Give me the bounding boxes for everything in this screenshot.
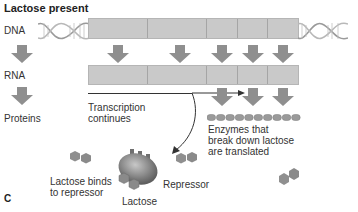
down-arrow-icon — [272, 45, 294, 63]
repressor-icon — [114, 147, 162, 195]
rna-segment-divider — [147, 66, 148, 84]
down-arrow-icon — [272, 88, 294, 106]
rna-label: RNA — [4, 70, 25, 81]
dna-segment-divider — [206, 19, 207, 38]
transcription-line2: continues — [88, 113, 145, 124]
dna-segment-divider — [147, 19, 148, 38]
rna-bar — [88, 65, 299, 85]
rna-segment-divider — [267, 66, 268, 84]
down-arrow-icon — [169, 45, 191, 63]
enzymes-line2: break down lactose — [208, 135, 294, 146]
repressor-label: Repressor — [163, 179, 209, 190]
enzyme-chain-icon — [207, 114, 301, 121]
down-arrow-icon — [11, 45, 33, 63]
down-arrow-icon — [107, 45, 129, 63]
lactose-binds-line2: to repressor — [50, 187, 112, 198]
lactose-label: Lactose — [122, 196, 157, 207]
transcription-line1: Transcription — [88, 102, 145, 113]
rna-segment-divider — [237, 66, 238, 84]
lactose-molecule-icon — [276, 166, 302, 188]
transcription-label: Transcription continues — [88, 102, 145, 124]
dna-helix-right-icon — [298, 18, 348, 44]
enzymes-line1: Enzymes that — [208, 124, 294, 135]
rna-segment-divider — [206, 66, 207, 84]
proteins-label: Proteins — [4, 113, 41, 124]
enzymes-label: Enzymes that break down lactose are tran… — [208, 124, 294, 157]
down-arrow-icon — [211, 45, 233, 63]
panel-letter: C — [4, 193, 11, 204]
lactose-molecule-icon — [68, 150, 94, 166]
down-arrow-icon — [11, 87, 33, 105]
down-arrow-icon — [242, 88, 264, 106]
dna-label: DNA — [4, 25, 25, 36]
dna-segment-divider — [237, 19, 238, 38]
lactose-binds-line1: Lactose binds — [50, 176, 112, 187]
down-arrow-icon — [211, 88, 233, 106]
lactose-binds-label: Lactose binds to repressor — [50, 176, 112, 198]
dna-segment-divider — [267, 19, 268, 38]
enzymes-line3: are translated — [208, 146, 294, 157]
diagram-title: Lactose present — [4, 2, 88, 14]
dna-helix-left-icon — [38, 18, 90, 44]
dna-gene-bar — [88, 18, 299, 39]
lactose-molecule-icon — [174, 151, 200, 167]
down-arrow-icon — [242, 45, 264, 63]
